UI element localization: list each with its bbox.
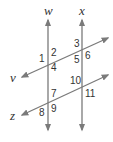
line-label-z: z [9,108,15,123]
line-label-w: w [44,3,53,18]
angle-label-1: 1 [39,53,45,64]
angle-label-3: 3 [74,38,80,49]
line-label-x: x [78,3,85,18]
angle-label-6: 6 [85,50,91,61]
angle-label-11: 11 [85,88,96,99]
angle-label-5: 5 [74,54,80,65]
diagram-canvas: wxvz1234567891011 [0,0,113,142]
angle-label-9: 9 [51,103,57,114]
angle-label-7: 7 [51,88,57,99]
line-label-v: v [10,70,16,85]
angle-label-2: 2 [51,47,57,58]
angle-label-8: 8 [39,107,45,118]
angle-label-4: 4 [51,62,57,73]
angle-label-10: 10 [70,75,82,86]
line-v [22,38,108,77]
parallel-lines-transversal-diagram: wxvz1234567891011 [0,0,113,142]
